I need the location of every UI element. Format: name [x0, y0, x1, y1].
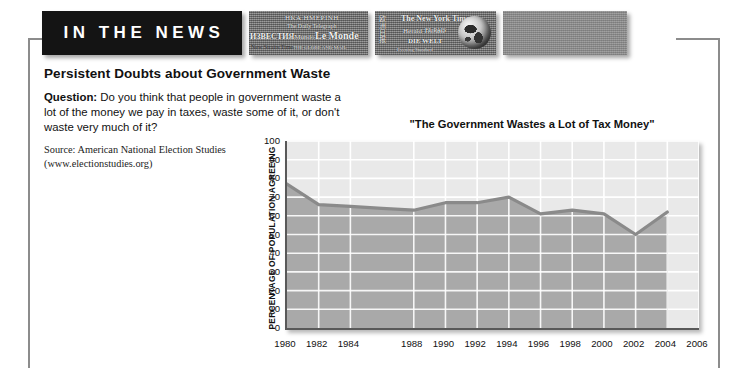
in-the-news-banner: IN THE NEWS — [42, 11, 242, 55]
y-tick-label: 70 — [254, 192, 280, 202]
clipping-text: o Mundo — [289, 33, 314, 41]
y-tick-label: 60 — [254, 211, 280, 221]
x-tick-label: 1984 — [328, 338, 368, 349]
question-block: Question: Do you think that people in go… — [44, 90, 344, 136]
y-tick-label: 20 — [254, 286, 280, 296]
clipping-text: The Daily Telegraph — [287, 23, 336, 29]
y-tick-label: 40 — [254, 248, 280, 258]
frame-left-rule — [28, 38, 30, 368]
clipping-text: Le Monde — [315, 30, 359, 41]
frame-right-rule — [718, 38, 720, 368]
globe-icon — [458, 16, 491, 49]
halftone-texture — [503, 11, 627, 55]
in-the-news-label: IN THE NEWS — [60, 23, 225, 43]
y-tick-label: 0 — [254, 323, 280, 333]
frame-right-top-rule — [676, 38, 719, 40]
clipping-text: DIE WELT — [408, 37, 442, 45]
clipping-text: EL PAIS — [425, 27, 446, 33]
y-tick-label: 10 — [254, 304, 280, 314]
area-chart-svg — [287, 141, 699, 328]
y-axis-ticks: 0102030405060708090100 — [248, 0, 280, 368]
y-tick-label: 90 — [254, 155, 280, 165]
x-tick-label: 2006 — [677, 338, 717, 349]
clipping-text: ΗΚΑ ΗΜΕΡΙΝΗ — [285, 14, 339, 22]
newspaper-collage-3 — [503, 11, 627, 55]
clipping-text: 欧洲日报 — [377, 15, 387, 43]
y-tick-label: 30 — [254, 267, 280, 277]
y-tick-label: 50 — [254, 230, 280, 240]
clipping-text: THE GLOBE AND MAIL — [293, 45, 346, 50]
page-title: Persistent Doubts about Government Waste — [44, 66, 330, 81]
masthead: IN THE NEWS ΗΚΑ ΗΜΕΡΙΝΗ The Daily Telegr… — [42, 11, 627, 55]
y-tick-label: 100 — [254, 136, 280, 146]
y-tick-label: 80 — [254, 173, 280, 183]
newspaper-collage-2: 欧洲日报 The New York Times Herald Tribune E… — [375, 11, 496, 55]
chart-title: "The Government Wastes a Lot of Tax Mone… — [352, 118, 712, 130]
question-label: Question: — [44, 91, 97, 103]
y-axis-label-container: PERCENTAGE OF POPULATION AGREEING — [232, 95, 248, 335]
x-axis-ticks: 1980198219841988199019921994199619982000… — [0, 338, 747, 358]
news-feature-page: IN THE NEWS ΗΚΑ ΗΜΕΡΙΝΗ The Daily Telegr… — [0, 0, 747, 368]
chart-plot-area — [285, 141, 699, 330]
clipping-text: Evening Standard — [397, 47, 433, 52]
